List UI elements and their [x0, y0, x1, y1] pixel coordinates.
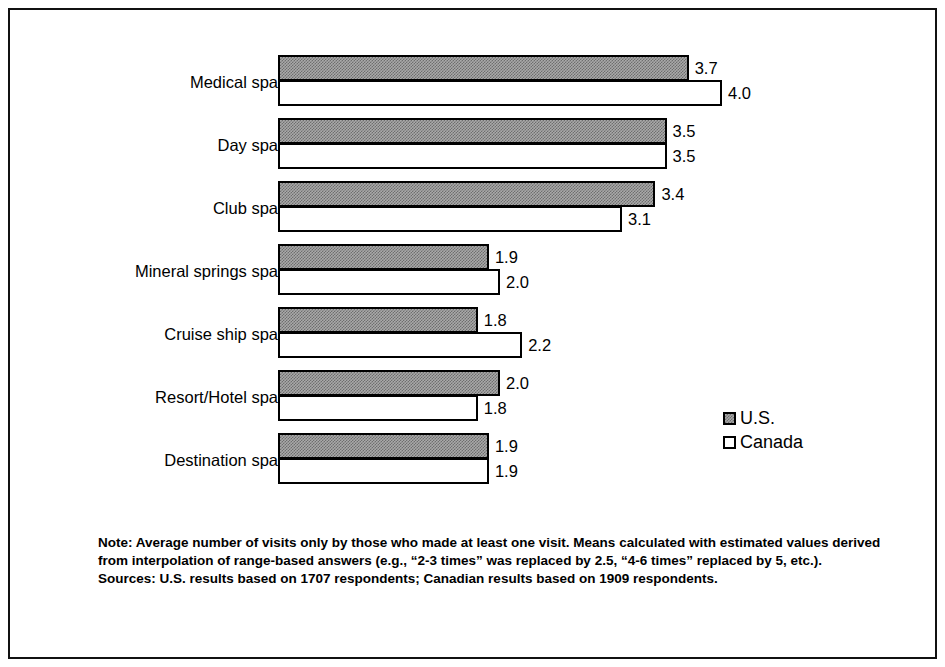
- bar-value-label: 1.8: [484, 312, 507, 329]
- bar-group-row: Day spa3.53.5: [10, 118, 939, 172]
- bar-ca: [278, 332, 522, 358]
- bar-ca: [278, 458, 489, 484]
- bar-value-label: 1.9: [495, 463, 518, 480]
- bar-ca: [278, 143, 667, 169]
- footnote-note: Note: Average number of visits only by t…: [98, 534, 898, 570]
- bar-group-row: Mineral springs spa1.92.0: [10, 244, 939, 298]
- bar-group-row: Club spa3.43.1: [10, 181, 939, 235]
- category-label: Club spa: [18, 199, 278, 217]
- legend-swatch-us-icon: [723, 412, 736, 425]
- bar-value-label: 1.9: [495, 438, 518, 455]
- bar-value-label: 4.0: [728, 85, 751, 102]
- bar-value-label: 2.0: [506, 274, 529, 291]
- bar-group-row: Medical spa3.74.0: [10, 55, 939, 109]
- chart-legend: U.S. Canada: [723, 406, 803, 454]
- bar-us: [278, 370, 500, 396]
- bar-ca: [278, 80, 722, 106]
- legend-item-canada: Canada: [723, 430, 803, 454]
- legend-item-us: U.S.: [723, 406, 803, 430]
- category-label: Mineral springs spa: [18, 262, 278, 280]
- category-label: Destination spa: [18, 451, 278, 469]
- category-label: Medical spa: [18, 73, 278, 91]
- bar-value-label: 3.7: [695, 60, 718, 77]
- bar-value-label: 2.0: [506, 375, 529, 392]
- bar-value-label: 3.1: [628, 211, 651, 228]
- category-label: Day spa: [18, 136, 278, 154]
- bar-ca: [278, 395, 478, 421]
- bar-us: [278, 118, 667, 144]
- bar-group-row: Cruise ship spa1.82.2: [10, 307, 939, 361]
- bar-value-label: 3.5: [673, 123, 696, 140]
- bar-ca: [278, 206, 622, 232]
- bar-value-label: 1.8: [484, 400, 507, 417]
- bar-us: [278, 244, 489, 270]
- chart-footnotes: Note: Average number of visits only by t…: [98, 534, 898, 587]
- bar-value-label: 3.5: [673, 148, 696, 165]
- bar-value-label: 2.2: [528, 337, 551, 354]
- bar-value-label: 3.4: [661, 186, 684, 203]
- bar-us: [278, 181, 655, 207]
- legend-swatch-canada-icon: [723, 436, 736, 449]
- legend-label-canada: Canada: [740, 432, 803, 453]
- bar-us: [278, 307, 478, 333]
- bar-value-label: 1.9: [495, 249, 518, 266]
- legend-label-us: U.S.: [740, 408, 775, 429]
- bar-us: [278, 433, 489, 459]
- chart-figure: Medical spa3.74.0Day spa3.53.5Club spa3.…: [8, 8, 937, 659]
- bar-us: [278, 55, 689, 81]
- category-label: Cruise ship spa: [18, 325, 278, 343]
- category-label: Resort/Hotel spa: [18, 388, 278, 406]
- footnote-sources: Sources: U.S. results based on 1707 resp…: [98, 570, 898, 588]
- bar-ca: [278, 269, 500, 295]
